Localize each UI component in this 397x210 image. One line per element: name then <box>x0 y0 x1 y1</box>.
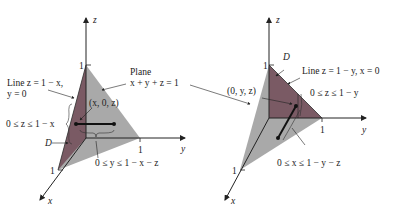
right-x-axis <box>225 118 269 200</box>
right-x-axis-label: x <box>231 196 235 206</box>
left-z-tick: 1 <box>79 61 84 71</box>
right-z-tick: 1 <box>263 61 268 71</box>
left-point-y <box>112 122 116 126</box>
left-z-range-label: 0 ≤ z ≤ 1 − x <box>6 119 55 129</box>
left-point-xz <box>74 122 78 126</box>
right-point-x <box>276 136 280 140</box>
left-point-label: (x, 0, z) <box>89 98 119 108</box>
right-z-range-label: 0 ≤ z ≤ 1 − y <box>310 88 359 98</box>
right-z-axis-label: z <box>276 15 280 25</box>
diagram-canvas <box>0 0 397 210</box>
left-y-tick: 1 <box>138 145 143 155</box>
left-plane-equation: x + y + z = 1 <box>130 78 179 88</box>
right-line-label: Line z = 1 − y, x = 0 <box>302 66 379 76</box>
right-y-axis-label: y <box>362 125 366 135</box>
right-x-range-label: 0 ≤ x ≤ 1 − y − z <box>277 158 340 168</box>
right-point-yz <box>294 104 298 108</box>
left-tetrahedron <box>58 65 140 170</box>
right-region-d-label: D <box>283 52 290 62</box>
right-x-tick: 1 <box>232 166 237 176</box>
left-x-axis-label: x <box>48 196 52 206</box>
left-line-label: Line z = 1 − x, <box>7 78 63 88</box>
left-y-range-label: 0 ≤ y ≤ 1 − x − z <box>95 158 158 168</box>
left-x-tick: 1 <box>50 166 55 176</box>
left-plane-label: Plane <box>130 67 151 77</box>
right-point-label: (0, y, z) <box>227 86 256 96</box>
left-region-d-label: D <box>45 138 52 148</box>
left-z-axis-label: z <box>93 15 97 25</box>
left-line-label-cont: y = 0 <box>7 89 27 99</box>
right-y-tick: 1 <box>320 125 325 135</box>
left-y-axis-label: y <box>181 144 185 154</box>
